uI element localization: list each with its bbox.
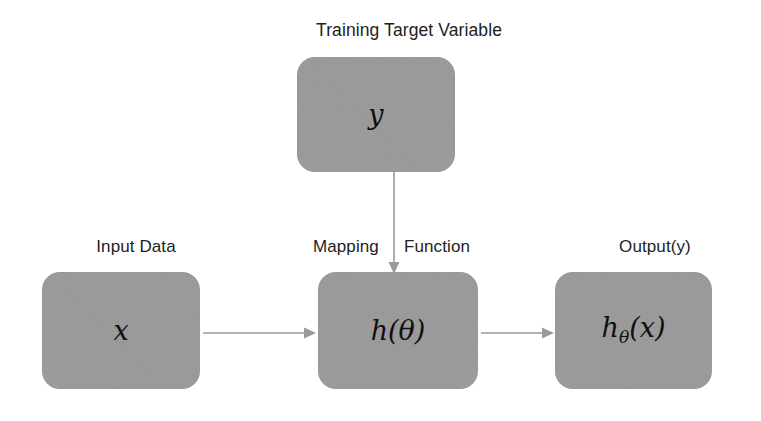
node-output-math-subscript: θ	[619, 328, 629, 348]
node-target-math: y	[368, 101, 383, 128]
arrow-model-to-output-head	[542, 328, 554, 339]
node-input-math: x	[113, 317, 128, 344]
label-output: Output(y)	[619, 237, 691, 257]
node-output-math-base: h	[602, 312, 619, 343]
node-output-math: hθ(x)	[602, 314, 666, 346]
node-output[interactable]: hθ(x)	[555, 272, 712, 389]
label-function: Function	[404, 237, 470, 257]
label-mapping: Mapping	[313, 237, 379, 257]
arrow-target-to-model	[384, 170, 404, 276]
node-input-data[interactable]: x	[42, 272, 200, 389]
diagram-title: Training Target Variable	[316, 20, 502, 40]
node-training-target-variable[interactable]: y	[297, 57, 455, 172]
arrow-input-to-model	[203, 324, 317, 342]
node-model-math: h(θ)	[371, 317, 426, 344]
label-input-data: Input Data	[96, 237, 175, 257]
arrow-model-to-output	[481, 324, 555, 342]
arrow-input-to-model-head	[304, 328, 316, 339]
diagram-canvas: Training Target Variable y Input Data Ma…	[0, 0, 761, 421]
node-output-math-argument: (x)	[629, 312, 665, 343]
node-mapping-function[interactable]: h(θ)	[318, 272, 478, 389]
